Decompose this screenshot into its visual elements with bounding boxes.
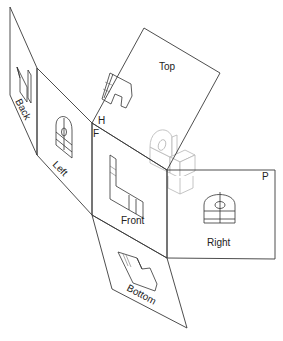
right-view-drawing: [204, 192, 235, 223]
top-label: Top: [159, 61, 176, 72]
profile-plane-marker: P: [262, 171, 269, 182]
horizontal-plane-marker: H: [98, 115, 105, 126]
front-label: Front: [121, 215, 145, 226]
panel-back: Back: [10, 7, 37, 155]
glass-box-diagram: Back Left Top Front: [0, 0, 283, 341]
right-label: Right: [207, 237, 231, 248]
panel-bottom: Bottom: [92, 215, 187, 328]
left-view-drawing: [56, 117, 72, 158]
front-view-drawing: [110, 155, 143, 218]
left-label: Left: [51, 159, 71, 179]
frontal-plane-marker: F: [93, 128, 99, 139]
panel-left: Left: [37, 68, 92, 215]
isometric-object: [150, 130, 195, 194]
